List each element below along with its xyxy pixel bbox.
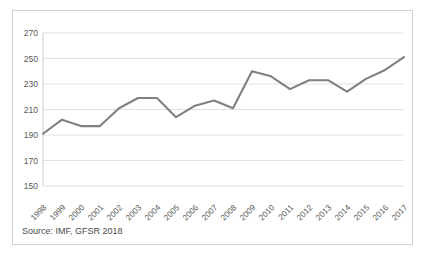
x-axis-tick-label: 2011	[277, 203, 296, 222]
x-axis-tick-label: 2001	[86, 203, 106, 223]
x-axis-tick-label: 2007	[200, 203, 220, 223]
x-axis-tick-label: 1999	[48, 203, 68, 223]
y-axis-tick-label: 190	[24, 130, 38, 140]
x-axis-tick-label: 2016	[371, 203, 391, 223]
x-axis-tick-label: 2004	[143, 203, 163, 223]
line-chart: 1501701902102302502701998199920002001200…	[13, 11, 412, 244]
y-axis-tick-label: 150	[24, 181, 38, 191]
y-axis-tick-label: 170	[24, 156, 38, 166]
x-axis-tick-label: 2014	[333, 203, 353, 223]
y-axis-tick-label: 270	[24, 28, 38, 38]
y-axis-tick-label: 230	[24, 79, 38, 89]
x-axis-tick-label: 1998	[29, 203, 49, 223]
chart-plot-area: 1501701902102302502701998199920002001200…	[13, 11, 412, 244]
x-axis-tick-label: 2015	[352, 203, 372, 223]
x-axis-tick-label: 2013	[314, 203, 334, 223]
x-axis-tick-label: 2009	[238, 203, 258, 223]
y-axis-tick-label: 250	[24, 54, 38, 64]
source-note: Source: IMF, GFSR 2018	[22, 226, 123, 236]
chart-card: 1501701902102302502701998199920002001200…	[12, 10, 413, 245]
series-line	[43, 57, 404, 134]
y-axis-tick-label: 210	[24, 105, 38, 115]
x-axis-tick-label: 2017	[390, 203, 410, 223]
x-axis-tick-label: 2010	[257, 203, 277, 223]
x-axis-tick-label: 2003	[124, 203, 144, 223]
x-axis-tick-label: 2006	[181, 203, 201, 223]
x-axis-tick-label: 2000	[67, 203, 87, 223]
x-axis-tick-label: 2002	[105, 203, 125, 223]
x-axis-tick-label: 2005	[162, 203, 182, 223]
x-axis-tick-label: 2008	[219, 203, 239, 223]
x-axis-tick-label: 2012	[295, 203, 315, 223]
